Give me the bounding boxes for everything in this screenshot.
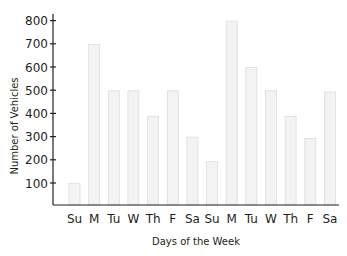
x-tick-label: Th [145, 212, 161, 226]
bar [148, 116, 159, 205]
bar [128, 91, 139, 205]
bar [108, 91, 119, 205]
y-tick-label: 300 [25, 130, 48, 144]
y-axis-title: Number of Vehicles [9, 77, 20, 174]
x-tick-label: Sa [185, 212, 200, 226]
y-tick-label: 500 [25, 84, 48, 98]
bar-chart: 100200300400500600700800 SuMTuWThFSaSuMT… [0, 0, 347, 256]
bar [226, 21, 237, 205]
bar [89, 44, 100, 205]
y-tick-label: 100 [25, 177, 48, 191]
bar [285, 116, 296, 205]
y-tick-label: 700 [25, 37, 48, 51]
x-tick-label: Tu [244, 212, 258, 226]
bar [266, 91, 277, 205]
x-axis-title: Days of the Week [152, 236, 240, 247]
x-tick-label: W [127, 212, 139, 226]
y-tick-label: 400 [25, 107, 48, 121]
bar [207, 162, 218, 205]
bar [246, 68, 257, 205]
x-axis-ticks: SuMTuWThFSaSuMTuWThFSa [67, 212, 338, 226]
x-tick-label: Sa [322, 212, 337, 226]
x-tick-label: Th [282, 212, 298, 226]
bar [187, 137, 198, 205]
bar [305, 138, 316, 205]
x-tick-label: Su [204, 212, 219, 226]
x-tick-label: F [307, 212, 314, 226]
y-tick-label: 800 [25, 14, 48, 28]
x-tick-label: Su [67, 212, 82, 226]
x-tick-label: W [265, 212, 277, 226]
bar [324, 92, 335, 205]
x-tick-label: F [169, 212, 176, 226]
y-tick-label: 600 [25, 61, 48, 75]
x-tick-label: Tu [106, 212, 120, 226]
bar [167, 91, 178, 205]
bar [69, 184, 80, 205]
x-tick-label: M [227, 212, 237, 226]
y-tick-label: 200 [25, 153, 48, 167]
y-axis-ticks: 100200300400500600700800 [25, 14, 56, 190]
bars-group [69, 21, 335, 205]
x-tick-label: M [89, 212, 99, 226]
